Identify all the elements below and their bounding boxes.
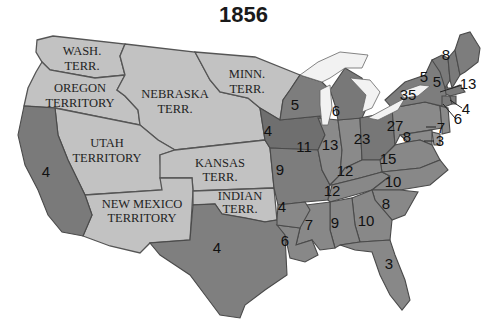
votes-arkansas: 4: [278, 198, 286, 215]
votes-florida: 3: [385, 255, 393, 272]
votes-tennessee: 12: [324, 182, 341, 199]
state-florida: [340, 240, 410, 310]
votes-massachusetts: 13: [460, 75, 477, 92]
votes-iowa: 4: [264, 122, 272, 139]
votes-new-hampshire: 5: [433, 73, 441, 90]
votes-alabama: 9: [331, 214, 339, 231]
votes-vermont: 5: [420, 68, 428, 85]
label-oregon-territory: OREGONTERRITORY: [45, 81, 114, 110]
votes-michigan: 6: [332, 102, 340, 119]
votes-california: 4: [42, 163, 50, 180]
votes-texas: 4: [213, 239, 221, 256]
votes-connecticut: 6: [454, 110, 462, 127]
votes-wisconsin: 5: [291, 96, 299, 113]
label-wash-terr: WASH.TERR.: [63, 44, 102, 73]
votes-north-carolina: 10: [385, 173, 402, 190]
votes-kentucky: 12: [337, 162, 354, 179]
votes-louisiana: 6: [281, 232, 289, 249]
label-minn-terr: MINN.TERR.: [229, 67, 265, 96]
votes-new-york: 35: [400, 86, 417, 103]
label-new-mexico-territory: NEW MEXICOTERRITORY: [102, 197, 183, 225]
votes-virginia: 15: [380, 150, 397, 167]
votes-georgia: 10: [358, 212, 375, 229]
votes-illinois: 11: [296, 138, 312, 155]
state-maine: [455, 32, 480, 75]
votes-indiana: 13: [322, 136, 339, 153]
votes-rhode-island: 4: [462, 100, 470, 117]
votes-missouri: 9: [276, 161, 284, 178]
votes-maine: 8: [442, 46, 450, 63]
us-electoral-map: WASH.TERR. OREGONTERRITORY NEBRASKATERR.…: [0, 0, 487, 322]
votes-pennsylvania: 27: [387, 117, 404, 134]
label-indian-terr: INDIANTERR.: [218, 189, 262, 216]
label-kansas-terr: KANSASTERR.: [195, 156, 245, 184]
votes-south-carolina: 8: [382, 195, 390, 212]
votes-mississippi: 7: [305, 216, 313, 233]
votes-maryland: 8: [403, 128, 411, 145]
votes-ohio: 23: [354, 130, 371, 147]
votes-delaware: 3: [436, 132, 444, 149]
